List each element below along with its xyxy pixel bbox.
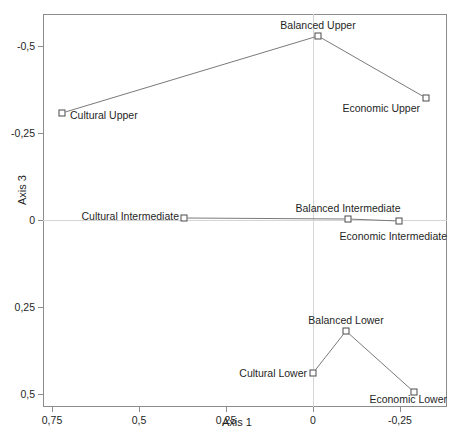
data-point-cultural-lower[interactable] bbox=[310, 370, 317, 377]
data-point-balanced-lower[interactable] bbox=[343, 328, 350, 335]
data-point-economic-upper[interactable] bbox=[423, 95, 430, 102]
y-tick-mark-0-25 bbox=[38, 307, 43, 308]
y-tick-mark-neg-0-25 bbox=[38, 133, 43, 134]
data-label-balanced-upper: Balanced Upper bbox=[280, 20, 355, 31]
data-point-economic-intermediate[interactable] bbox=[396, 218, 403, 225]
x-tick-label-neg-0-25: -0,25 bbox=[388, 415, 412, 426]
data-label-balanced-intermediate: Balanced Intermediate bbox=[295, 203, 400, 214]
data-point-cultural-upper[interactable] bbox=[59, 110, 66, 117]
data-label-economic-intermediate: Economic Intermediate bbox=[340, 231, 447, 242]
y-tick-label-0: 0 bbox=[29, 215, 35, 226]
x-tick-mark-0-25 bbox=[226, 407, 227, 412]
y-tick-label-0-25: 0,25 bbox=[15, 302, 35, 313]
data-label-cultural-upper: Cultural Upper bbox=[70, 110, 138, 121]
x-axis-title: Axis 1 bbox=[222, 417, 252, 428]
data-label-economic-upper: Economic Upper bbox=[342, 103, 420, 114]
y-axis-title: Axis 3 bbox=[17, 175, 28, 205]
y-tick-mark-0-5 bbox=[38, 394, 43, 395]
data-point-balanced-intermediate[interactable] bbox=[345, 216, 352, 223]
x-tick-mark-0-5 bbox=[139, 407, 140, 412]
x-tick-mark-neg-0-25 bbox=[400, 407, 401, 412]
y-tick-mark-neg-0-5 bbox=[38, 46, 43, 47]
scatter-plot-figure: -0,5 -0,25 0 0,25 0,5 0,75 0,5 0,25 0 -0… bbox=[0, 0, 456, 443]
x-tick-mark-0 bbox=[313, 407, 314, 412]
data-point-balanced-upper[interactable] bbox=[315, 33, 322, 40]
x-tick-label-0-75: 0,75 bbox=[42, 415, 62, 426]
data-label-cultural-intermediate: Cultural Intermediate bbox=[82, 211, 179, 222]
y-tick-label-neg-0-5: -0,5 bbox=[17, 41, 35, 52]
data-label-cultural-lower: Cultural Lower bbox=[239, 368, 307, 379]
y-tick-label-0-5: 0,5 bbox=[20, 389, 35, 400]
data-label-balanced-lower: Balanced Lower bbox=[308, 315, 383, 326]
x-tick-mark-0-75 bbox=[52, 407, 53, 412]
data-label-economic-lower: Economic Lower bbox=[369, 394, 447, 405]
y-tick-mark-0 bbox=[38, 220, 43, 221]
x-tick-label-0: 0 bbox=[310, 415, 316, 426]
data-point-cultural-intermediate[interactable] bbox=[181, 215, 188, 222]
y-tick-label-neg-0-25: -0,25 bbox=[11, 128, 35, 139]
x-tick-label-0-5: 0,5 bbox=[132, 415, 147, 426]
